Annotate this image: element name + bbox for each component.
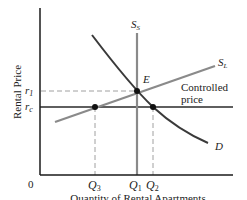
equilibrium-label: E: [142, 73, 150, 85]
controlled-price-label-line1: Controlled: [181, 81, 229, 93]
controlled-price-label-line2: price: [181, 93, 203, 105]
q2-point: [150, 104, 156, 110]
rent-control-chart: Rental Price r1 rc 0 Q3 Q1 Q2 Quantity o…: [0, 0, 247, 200]
q3-label: Q3: [88, 178, 101, 193]
origin-label: 0: [28, 178, 34, 190]
rc-label: rc: [25, 100, 33, 114]
equilibrium-point: [134, 88, 140, 94]
q1-label: Q1: [129, 178, 142, 193]
y-axis-label: Rental Price: [11, 65, 23, 119]
short-run-supply-label: SS: [131, 18, 141, 32]
x-axis-label: Quantity of Rental Apartments: [70, 192, 205, 200]
demand-label: D: [214, 140, 223, 152]
long-run-supply-label: SL: [218, 56, 228, 70]
q3-point: [92, 104, 98, 110]
q2-label: Q2: [146, 178, 159, 193]
r1-label: r1: [25, 84, 33, 98]
